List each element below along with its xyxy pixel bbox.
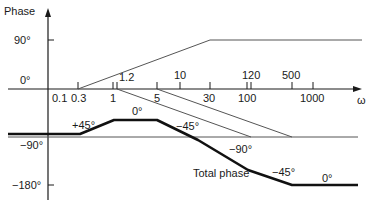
x-tick-label-500: 500 <box>282 69 300 81</box>
segment-label-zero-1: 0° <box>132 105 143 117</box>
segment-label-minus90: −90° <box>229 143 252 155</box>
segment-label-zero-2: 0° <box>322 172 333 184</box>
segment-label-minus45-b: −45° <box>272 166 295 178</box>
y-tick-label-0: 0° <box>20 74 31 86</box>
x-tick-label-120: 120 <box>242 69 260 81</box>
x-tick-label-1000: 1000 <box>300 92 324 104</box>
y-tick-label-minus180: −180° <box>12 179 41 191</box>
y-tick-label-90: 90° <box>14 34 31 46</box>
x-ticks <box>78 82 313 89</box>
x-axis-arrow-icon <box>353 86 362 92</box>
segment-label-minus45-a: −45° <box>176 120 199 132</box>
bode-phase-diagram: Phase ω 90° 0° −90° −180° 0.1 0.3 1 5 30… <box>0 0 372 203</box>
y-axis-label: Phase <box>4 5 35 17</box>
x-axis-label: ω <box>357 94 366 106</box>
x-tick-label-0.1: 0.1 <box>52 92 67 104</box>
x-tick-label-100: 100 <box>238 92 256 104</box>
x-tick-label-10: 10 <box>174 69 186 81</box>
segment-label-plus45: +45° <box>72 119 95 131</box>
y-axis-arrow-icon <box>45 8 51 17</box>
total-phase-label: Total phase <box>193 167 249 179</box>
x-tick-label-0.3: 0.3 <box>71 92 86 104</box>
x-tick-label-1: 1 <box>110 92 116 104</box>
y-tick-label-minus90: −90° <box>20 139 43 151</box>
x-tick-label-30: 30 <box>203 92 215 104</box>
